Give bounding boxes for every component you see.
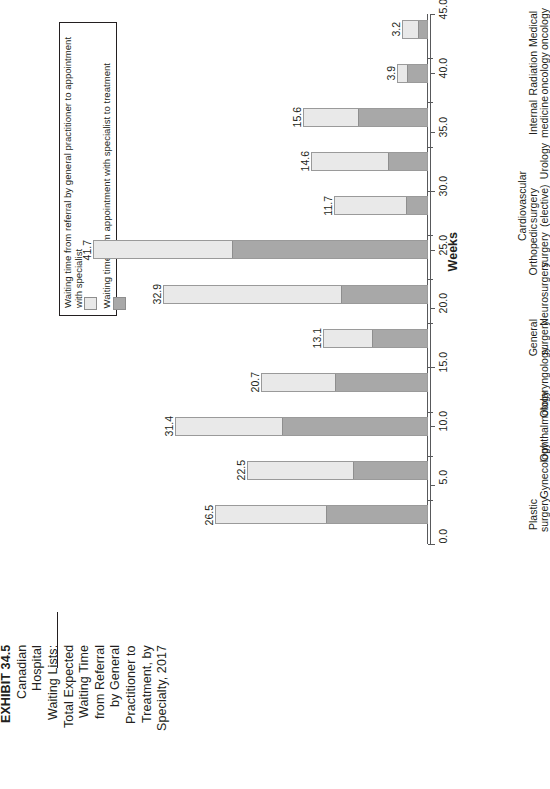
value-tick-label: 45.0 — [437, 0, 449, 19]
stacked-bar — [261, 373, 428, 392]
exhibit-title-line: Treatment, by — [141, 645, 154, 783]
bar-segment-specialist-to-treatment — [373, 330, 427, 347]
bar-row: 14.6 — [295, 147, 428, 177]
exhibit-title-line: Total Expected — [63, 645, 76, 783]
bar-segment-specialist-to-treatment — [342, 286, 427, 303]
exhibit-title: EXHIBIT 34.5CanadianHospitalWaiting List… — [0, 645, 260, 789]
value-tick — [430, 73, 435, 74]
stacked-bar — [402, 20, 428, 39]
bar-segment-referral-to-specialist — [216, 506, 328, 523]
bar-row: 13.1 — [307, 323, 428, 353]
category-label-text: Medical oncology — [528, 8, 550, 50]
exhibit-title-line: Waiting Lists: — [47, 645, 60, 783]
value-tick — [430, 132, 435, 133]
bar-value-label: 41.7 — [81, 240, 93, 260]
category-label-text: Radiation oncology — [528, 51, 550, 95]
value-tick — [430, 485, 435, 486]
value-tick-label: 30.0 — [437, 176, 449, 196]
bar-value-label: 11.7 — [322, 196, 334, 216]
plot-area: 3.2Medical oncology3.9Radiation oncology… — [66, 14, 428, 544]
bar-row: 3.9 — [381, 58, 428, 88]
exhibit-title-line: Hospital — [31, 645, 44, 783]
bar-row: 22.5 — [231, 456, 428, 486]
bar-segment-referral-to-specialist — [176, 418, 283, 435]
bar-row: 32.9 — [147, 279, 428, 309]
bar-segment-specialist-to-treatment — [354, 462, 427, 479]
value-tick — [430, 308, 435, 309]
bar-value-label: 26.5 — [203, 505, 215, 525]
stacked-bar — [334, 196, 428, 215]
bar-segment-specialist-to-treatment — [407, 197, 427, 214]
bar-row: 41.7 — [77, 235, 428, 265]
stacked-bar — [323, 329, 428, 348]
stacked-bar — [215, 505, 428, 524]
bar-value-label: 3.9 — [385, 66, 397, 81]
exhibit-title-line: EXHIBIT 34.5 — [0, 645, 13, 783]
bar-value-label: 14.6 — [299, 151, 311, 171]
stacked-bar — [303, 108, 428, 127]
value-tick — [430, 191, 435, 192]
axis-title-weeks: Weeks — [446, 232, 460, 271]
bar-segment-specialist-to-treatment — [233, 241, 427, 258]
bar-value-label: 32.9 — [151, 284, 163, 304]
bar-segment-specialist-to-treatment — [419, 21, 427, 38]
value-tick — [430, 367, 435, 368]
bar-segment-referral-to-specialist — [94, 241, 233, 258]
stacked-bar — [311, 152, 428, 171]
bar-segment-specialist-to-treatment — [283, 418, 427, 435]
bar-row: 26.5 — [199, 500, 428, 530]
bar-segment-referral-to-specialist — [304, 109, 359, 126]
bar-segment-referral-to-specialist — [403, 21, 419, 38]
exhibit-title-line: Waiting Time — [78, 645, 91, 783]
bar-value-label: 20.7 — [249, 372, 261, 392]
category-label-text: Neurosurgery — [539, 262, 550, 326]
bar-segment-specialist-to-treatment — [359, 109, 427, 126]
bar-value-label: 22.5 — [235, 460, 247, 480]
stacked-bar — [175, 417, 428, 436]
bar-row: 3.2 — [386, 14, 428, 44]
exhibit-title-line: by General — [109, 645, 122, 783]
stacked-bar — [397, 64, 428, 83]
bar-row: 20.7 — [245, 367, 428, 397]
bar-segment-referral-to-specialist — [324, 330, 373, 347]
value-tick — [430, 14, 435, 15]
stacked-bar — [163, 285, 428, 304]
value-axis: 0.05.010.015.020.025.030.035.040.045.0 — [430, 14, 488, 570]
exhibit-title-line: Practitioner to — [125, 645, 138, 783]
bar-segment-specialist-to-treatment — [327, 506, 427, 523]
exhibit-title-line: Specialty, 2017 — [156, 645, 169, 783]
bar-value-label: 3.2 — [390, 22, 402, 37]
value-tick-label: 10.0 — [437, 411, 449, 431]
bar-segment-referral-to-specialist — [335, 197, 407, 214]
bar-segment-referral-to-specialist — [312, 153, 389, 170]
value-tick-label: 5.0 — [437, 470, 449, 485]
bar-row: 11.7 — [318, 191, 428, 221]
bar-segment-referral-to-specialist — [398, 65, 409, 82]
category-label-text: Gynecology — [539, 443, 550, 498]
value-tick-label: 20.0 — [437, 293, 449, 313]
bar-value-label: 13.1 — [311, 328, 323, 348]
value-tick — [430, 250, 435, 251]
value-tick — [430, 426, 435, 427]
bar-value-label: 31.4 — [163, 416, 175, 436]
category-label-text: Internal medicine — [528, 96, 550, 138]
bar-segment-specialist-to-treatment — [389, 153, 427, 170]
value-tick — [430, 544, 435, 545]
exhibit-title-line: from Referral — [94, 645, 107, 783]
stacked-bar — [247, 461, 428, 480]
bar-segment-specialist-to-treatment — [408, 65, 427, 82]
value-tick-label: 15.0 — [437, 352, 449, 372]
bar-segment-referral-to-specialist — [248, 462, 354, 479]
value-tick-label: 35.0 — [437, 117, 449, 137]
bar-segment-specialist-to-treatment — [336, 374, 427, 391]
value-axis-line — [430, 14, 431, 544]
bar-value-label: 15.6 — [291, 107, 303, 127]
bar-segment-referral-to-specialist — [164, 286, 341, 303]
exhibit-title-line: Canadian — [16, 645, 29, 783]
value-tick-label: 0.0 — [437, 529, 449, 544]
bar-segment-referral-to-specialist — [262, 374, 336, 391]
bar-row: 31.4 — [159, 412, 428, 442]
category-label-text: Plastic surgery — [528, 497, 550, 532]
stacked-bar — [93, 240, 428, 259]
value-tick-label: 40.0 — [437, 58, 449, 78]
